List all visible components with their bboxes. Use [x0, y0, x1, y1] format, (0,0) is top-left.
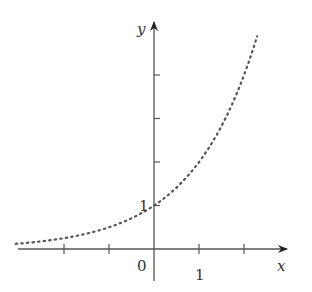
y-axis-label: y [136, 20, 146, 38]
x-tick-label-1: 1 [195, 266, 205, 284]
x-axis-label: x [277, 257, 286, 275]
y-ticks [154, 75, 160, 206]
origin-label: 0 [137, 257, 147, 275]
y-tick-label-1: 1 [139, 197, 149, 215]
graph-figure: y x 0 1 1 [0, 0, 312, 292]
exponential-curve [16, 36, 257, 244]
graph-canvas: y x 0 1 1 [0, 0, 312, 292]
